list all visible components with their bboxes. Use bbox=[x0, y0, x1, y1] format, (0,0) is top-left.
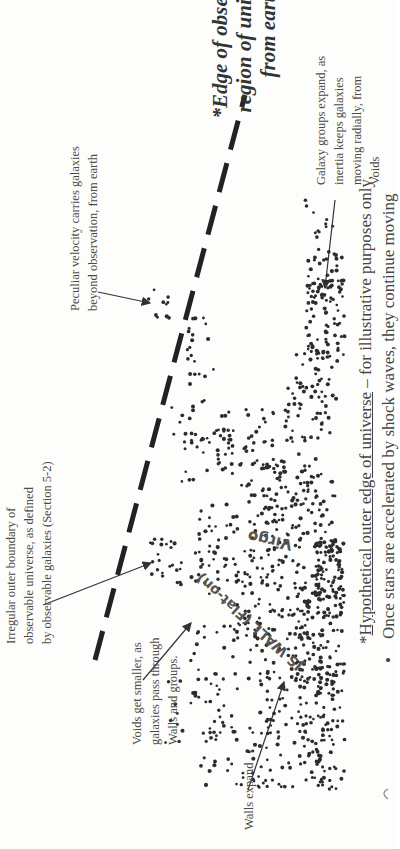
annotation-voids-smaller: Voids get smaller, as galaxies pass thro… bbox=[128, 637, 182, 745]
peculiar-velocity-arrow bbox=[98, 292, 150, 303]
annotation-galaxy-groups: Galaxy groups expand, as inertia keeps g… bbox=[312, 56, 384, 185]
annotation-irregular-boundary: Irregular outer boundary of observable u… bbox=[2, 461, 56, 644]
annotation-walls-expand: Walls expand bbox=[240, 763, 258, 830]
bullet-item: •Once stars are accelerated by shock wav… bbox=[378, 193, 400, 663]
footnote-rest: – for illustrative purposes only. bbox=[356, 176, 375, 392]
page-curl-mark bbox=[384, 789, 388, 799]
bullet-marker: • bbox=[379, 657, 398, 663]
annotation-peculiar-velocity: Peculiar velocity carries galaxies beyon… bbox=[66, 146, 102, 311]
diagram-title: *Edge of observable region of universe, … bbox=[208, 0, 280, 131]
footnote: *Hypothetical outer edge of universe – f… bbox=[355, 176, 377, 644]
footnote-underlined: Hypothetical outer edge of universe bbox=[356, 392, 375, 636]
footnote-prefix: * bbox=[356, 636, 375, 645]
edge-of-universe-dashed-line bbox=[95, 95, 245, 660]
bullet-text: Once stars are accelerated by shock wave… bbox=[379, 193, 398, 639]
irregular-boundary-arrow bbox=[43, 563, 151, 605]
